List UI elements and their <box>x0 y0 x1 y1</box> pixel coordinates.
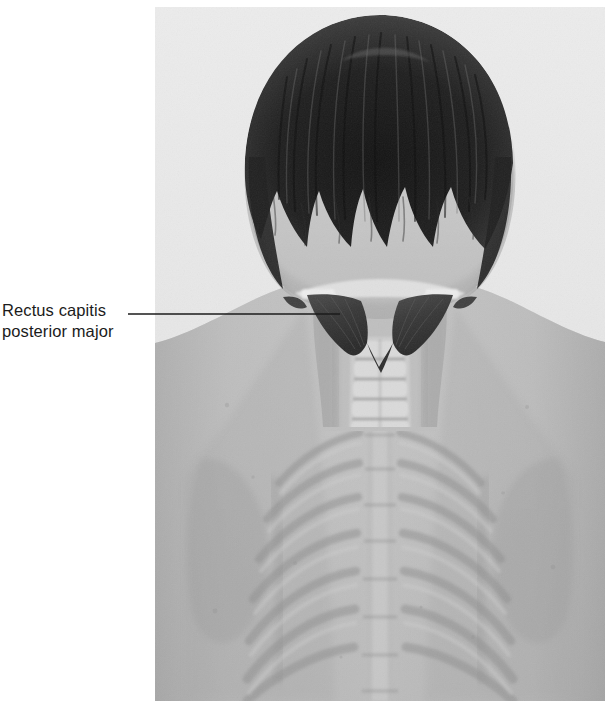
anatomy-photo-canvas <box>155 7 605 701</box>
anatomy-photograph <box>155 7 605 701</box>
annotation-label-line-1: Rectus capitis <box>2 300 152 321</box>
anatomy-figure: Rectus capitis posterior major <box>0 0 614 713</box>
annotation-label-line-2: posterior major <box>2 321 152 342</box>
annotation-label: Rectus capitis posterior major <box>2 300 152 342</box>
